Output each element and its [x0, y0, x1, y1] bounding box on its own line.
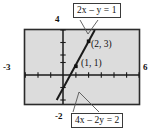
equation-label-top: 2x – y = 1: [73, 3, 121, 18]
point-label-1-1: (1, 1): [81, 58, 102, 68]
point-label-2-3: (2, 3): [91, 39, 112, 49]
y-axis-max-label: 4: [55, 14, 60, 24]
graph-figure: 2x – y = 1 4x – 2y = 2 -3 6 4 -2 (2, 3) …: [0, 0, 161, 139]
equation-label-bottom: 4x – 2y = 2: [71, 113, 123, 128]
x-axis-min-label: -3: [3, 62, 11, 72]
x-axis-max-label: 6: [143, 62, 148, 72]
data-point-marker: [74, 65, 78, 69]
data-point-marker: [87, 40, 91, 44]
y-axis-min-label: -2: [55, 111, 63, 121]
